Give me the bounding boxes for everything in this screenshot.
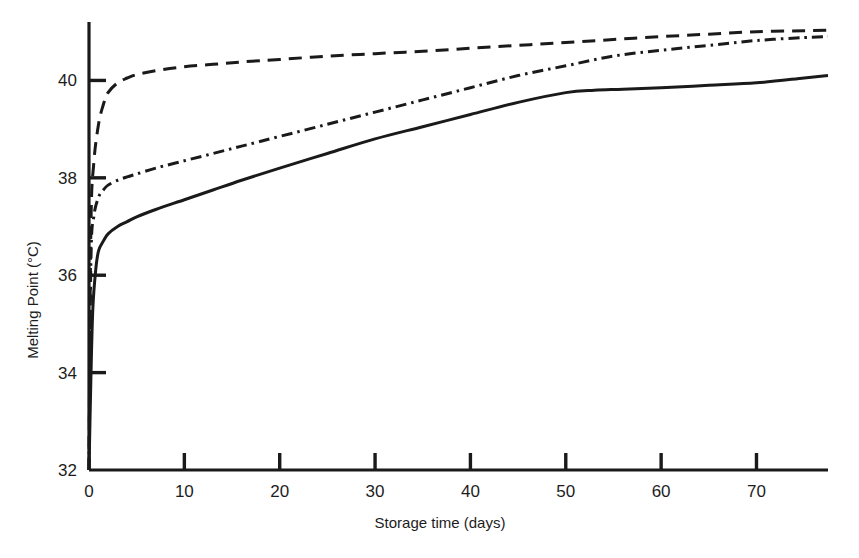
series-dash-dot-curve <box>89 37 828 470</box>
x-axis-title: Storage time (days) <box>375 514 506 531</box>
y-tick-label-40: 40 <box>58 71 77 90</box>
y-tick-label-38: 38 <box>58 169 77 188</box>
x-tick-label-0: 0 <box>84 482 93 501</box>
x-axis-tick-labels: 010203040506070 <box>84 482 766 501</box>
x-tick-label-30: 30 <box>366 482 385 501</box>
y-axis-title: Melting Point (°C) <box>24 241 41 359</box>
series-solid-curve <box>89 76 828 470</box>
x-tick-label-50: 50 <box>556 482 575 501</box>
y-tick-label-34: 34 <box>58 364 77 383</box>
line-chart-canvas: 3234363840 010203040506070 Melting Point… <box>0 0 859 558</box>
x-tick-label-40: 40 <box>461 482 480 501</box>
x-tick-label-70: 70 <box>747 482 766 501</box>
chart-figure: 3234363840 010203040506070 Melting Point… <box>0 0 859 558</box>
series-dashed-curve <box>89 30 828 470</box>
y-axis-tick-labels: 3234363840 <box>58 71 77 480</box>
y-tick-label-36: 36 <box>58 266 77 285</box>
x-axis-ticks <box>184 453 756 470</box>
x-tick-label-60: 60 <box>652 482 671 501</box>
data-series-group <box>89 30 828 470</box>
x-tick-label-10: 10 <box>175 482 194 501</box>
y-tick-label-32: 32 <box>58 461 77 480</box>
x-tick-label-20: 20 <box>270 482 289 501</box>
